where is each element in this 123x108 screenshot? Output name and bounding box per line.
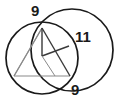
geometry-figure: 9 11 9 bbox=[0, 0, 123, 108]
label-chord-11: 11 bbox=[75, 29, 91, 44]
geometry-canvas bbox=[0, 0, 123, 108]
triangle-right-side bbox=[42, 28, 70, 76]
radius-chord-11 bbox=[42, 46, 69, 56]
label-bottom-9: 9 bbox=[71, 82, 79, 97]
inner-lower-chord bbox=[42, 56, 55, 76]
lower-chord bbox=[14, 28, 42, 76]
label-top-9: 9 bbox=[31, 3, 39, 18]
